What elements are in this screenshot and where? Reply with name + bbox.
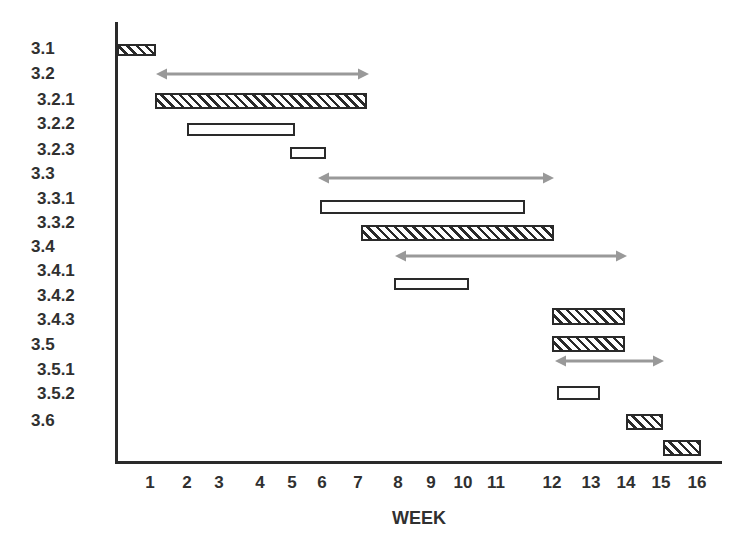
row-label: 3.3: [31, 164, 55, 184]
row-label: 3.5.1: [37, 360, 75, 380]
phase-arrows: [0, 0, 753, 546]
x-tick-label: 7: [353, 473, 362, 493]
x-tick-label: 6: [317, 473, 326, 493]
x-tick-label: 1: [145, 473, 154, 493]
hatched-task-bar: [552, 336, 625, 352]
x-tick-label: 10: [454, 473, 473, 493]
x-tick-label: 15: [652, 473, 671, 493]
open-task-bar: [290, 147, 326, 159]
phase-span-arrow: [555, 356, 664, 367]
x-tick-label: 13: [582, 473, 601, 493]
hatched-task-bar: [361, 225, 554, 241]
row-label: 3.2.2: [37, 114, 75, 134]
row-label: 3.2.1: [37, 90, 75, 110]
x-tick-label: 2: [182, 473, 191, 493]
hatched-task-bar: [552, 308, 625, 325]
x-tick-label: 5: [287, 473, 296, 493]
phase-span-arrow: [318, 173, 554, 184]
row-label: 3.1: [31, 39, 55, 59]
row-label: 3.2.3: [37, 140, 75, 160]
hatched-task-bar: [663, 440, 701, 456]
open-task-bar: [394, 278, 469, 290]
row-label: 3.3.2: [37, 213, 75, 233]
x-tick-label: 14: [617, 473, 636, 493]
x-axis-title: WEEK: [392, 508, 446, 529]
open-task-bar: [187, 123, 295, 136]
row-label: 3.4.1: [37, 261, 75, 281]
x-tick-label: 16: [688, 473, 707, 493]
row-label: 3.2: [31, 64, 55, 84]
row-label: 3.6: [31, 411, 55, 431]
x-tick-label: 8: [393, 473, 402, 493]
gantt-chart: 3.13.23.2.13.2.23.2.33.33.3.13.3.23.43.4…: [0, 0, 753, 546]
x-tick-label: 11: [487, 473, 505, 493]
row-label: 3.4: [31, 237, 55, 257]
open-task-bar: [320, 200, 525, 214]
y-axis-line: [115, 22, 118, 464]
row-label: 3.3.1: [37, 189, 75, 209]
x-tick-label: 3: [214, 473, 223, 493]
hatched-task-bar: [117, 44, 156, 56]
hatched-task-bar: [155, 93, 367, 109]
hatched-task-bar: [626, 414, 663, 430]
row-label: 3.4.2: [37, 286, 75, 306]
phase-span-arrow: [395, 251, 627, 262]
open-task-bar: [557, 386, 600, 400]
x-axis-line: [115, 461, 722, 464]
row-label: 3.5.2: [37, 384, 75, 404]
x-tick-label: 4: [255, 473, 264, 493]
phase-span-arrow: [156, 69, 369, 80]
x-tick-label: 9: [426, 473, 435, 493]
row-label: 3.5: [31, 335, 55, 355]
row-label: 3.4.3: [37, 310, 75, 330]
x-tick-label: 12: [543, 473, 562, 493]
